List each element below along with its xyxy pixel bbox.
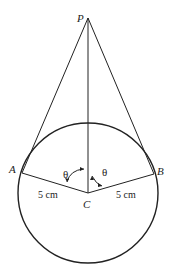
tangent-line-PA <box>22 18 88 173</box>
point-label-C: C <box>83 198 91 210</box>
angle-arc-right <box>92 176 102 186</box>
tangent-circle-diagram: P A B C θ θ 5 cm 5 cm <box>0 0 172 276</box>
radius-label-right: 5 cm <box>116 189 136 200</box>
radius-label-left: 5 cm <box>38 189 58 200</box>
point-label-P: P <box>76 12 84 24</box>
arrow-head-icon <box>80 167 84 171</box>
point-label-B: B <box>157 165 164 177</box>
angle-label-left: θ <box>63 168 68 180</box>
angle-label-right: θ <box>102 166 107 178</box>
point-label-A: A <box>8 163 16 175</box>
arrow-head-icon <box>98 183 102 187</box>
angle-arc-left <box>67 169 84 182</box>
tangent-line-PB <box>88 18 154 174</box>
